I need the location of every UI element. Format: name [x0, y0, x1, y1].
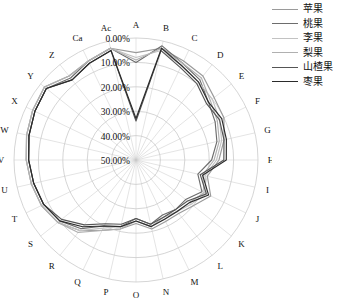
axis-spoke: [26, 160, 136, 213]
legend-label: 梨果: [303, 48, 323, 58]
category-label: S: [28, 239, 33, 249]
category-label: I: [266, 185, 269, 195]
category-label: Z: [49, 50, 55, 60]
legend-swatch: [272, 81, 298, 82]
category-label: P: [103, 287, 108, 297]
legend-label: 李果: [303, 33, 323, 43]
category-label: N: [163, 287, 170, 297]
axis-spoke: [136, 133, 255, 160]
axis-spoke: [136, 107, 246, 160]
radial-tick-label: 10.00%: [101, 58, 130, 68]
radial-tick-label: 0.00%: [105, 34, 130, 44]
category-label: U: [1, 185, 8, 195]
radar-chart-plot: 0.00%10.00%20.00%30.00%40.00%50.00% ABCD…: [0, 0, 272, 300]
category-label: F: [255, 96, 260, 106]
axis-spoke: [136, 41, 163, 160]
legend-item[interactable]: 苹果: [272, 2, 362, 17]
category-label: D: [217, 50, 224, 60]
legend-swatch: [272, 52, 298, 53]
legend-item[interactable]: 桃果: [272, 17, 362, 32]
radar-chart-container: 0.00%10.00%20.00%30.00%40.00%50.00% ABCD…: [0, 0, 362, 300]
category-label: K: [238, 239, 245, 249]
axis-spoke: [136, 160, 255, 187]
category-label: E: [239, 71, 245, 81]
category-label: B: [163, 23, 169, 33]
category-label: W: [0, 125, 9, 135]
legend-item[interactable]: 梨果: [272, 46, 362, 61]
legend-item[interactable]: 李果: [272, 31, 362, 46]
legend-label: 桃果: [303, 19, 323, 29]
category-label: H: [268, 155, 272, 165]
category-label: A: [133, 20, 140, 30]
legend-item[interactable]: 枣果: [272, 75, 362, 90]
category-label: V: [0, 155, 5, 165]
category-label: Y: [27, 71, 34, 81]
category-label: T: [12, 214, 18, 224]
legend-swatch: [272, 9, 298, 10]
category-label: C: [192, 33, 198, 43]
legend-label: 山楂果: [303, 62, 333, 72]
legend-swatch: [272, 23, 298, 24]
legend-swatch: [272, 38, 298, 39]
category-label: X: [11, 96, 18, 106]
category-label: Ac: [101, 23, 112, 33]
category-label: G: [264, 125, 271, 135]
chart-legend: 苹果 桃果 李果 梨果 山楂果 枣果: [272, 2, 362, 89]
legend-item[interactable]: 山楂果: [272, 60, 362, 75]
legend-label: 苹果: [303, 4, 323, 14]
category-label: O: [133, 290, 140, 300]
angular-gridlines: [14, 38, 258, 282]
category-label: L: [217, 261, 223, 271]
axis-spoke: [83, 160, 136, 270]
category-label: R: [49, 261, 55, 271]
axis-spoke: [136, 50, 189, 160]
category-label: M: [191, 277, 199, 287]
legend-swatch: [272, 67, 298, 68]
axis-spoke: [109, 160, 136, 279]
legend-label: 枣果: [303, 77, 323, 87]
radial-tick-label: 50.00%: [101, 156, 130, 166]
radial-tick-label: 40.00%: [101, 132, 130, 142]
category-label: Q: [74, 277, 81, 287]
axis-spoke: [136, 160, 246, 213]
radial-tick-label: 20.00%: [101, 83, 130, 93]
radial-tick-label: 30.00%: [101, 107, 130, 117]
category-label: Ca: [72, 33, 82, 43]
category-label: J: [256, 214, 260, 224]
